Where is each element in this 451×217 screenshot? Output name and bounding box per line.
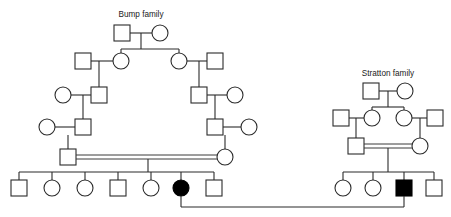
cross-family-union-line: [181, 196, 404, 207]
symbol-square-male-unaffected[interactable]: [11, 180, 27, 196]
stratton-sibship: [335, 172, 442, 196]
symbol-square-male-unaffected[interactable]: [333, 110, 349, 126]
symbol-circle-female-unaffected[interactable]: [241, 119, 257, 135]
symbol-circle-female-unaffected[interactable]: [44, 180, 60, 196]
symbol-square-male-unaffected[interactable]: [348, 138, 364, 154]
symbol-square-male-unaffected[interactable]: [191, 87, 207, 103]
symbol-square-male-unaffected[interactable]: [207, 53, 223, 69]
symbol-square-male-unaffected[interactable]: [426, 180, 442, 196]
symbol-square-male-unaffected[interactable]: [75, 53, 91, 69]
symbol-circle-female-unaffected[interactable]: [39, 119, 55, 135]
bump-consanguineous-couple: [60, 149, 233, 172]
symbol-square-male-affected[interactable]: [396, 180, 412, 196]
symbol-circle-female-unaffected[interactable]: [396, 110, 412, 126]
bump-generation-4: [39, 119, 257, 149]
symbol-circle-female-affected[interactable]: [173, 180, 189, 196]
stratton-family-label: Stratton family: [362, 69, 415, 78]
bump-sibship: [11, 172, 222, 196]
symbol-circle-female-unaffected[interactable]: [77, 180, 93, 196]
symbol-circle-female-unaffected[interactable]: [217, 149, 233, 165]
symbol-square-male-unaffected[interactable]: [60, 149, 76, 165]
symbol-square-male-unaffected[interactable]: [206, 180, 222, 196]
symbol-circle-female-unaffected[interactable]: [335, 180, 351, 196]
symbol-circle-female-unaffected[interactable]: [143, 180, 159, 196]
symbol-circle-female-unaffected[interactable]: [227, 87, 243, 103]
bump-family-label: Bump family: [118, 10, 164, 19]
stratton-consanguineous-couple: [348, 138, 428, 172]
bump-generation-3: [55, 87, 243, 119]
symbol-circle-female-unaffected[interactable]: [397, 83, 413, 99]
symbol-square-male-unaffected[interactable]: [114, 25, 130, 41]
symbol-circle-female-unaffected[interactable]: [365, 180, 381, 196]
symbol-circle-female-unaffected[interactable]: [113, 53, 129, 69]
symbol-circle-female-unaffected[interactable]: [55, 87, 71, 103]
pedigree-chart: Bump family: [0, 0, 451, 217]
symbol-square-male-unaffected[interactable]: [427, 110, 443, 126]
symbol-square-male-unaffected[interactable]: [207, 119, 223, 135]
stratton-generation-1: [363, 83, 413, 110]
pedigree-svg: Bump family: [0, 0, 451, 217]
stratton-generation-2: [333, 110, 443, 138]
symbol-circle-female-unaffected[interactable]: [412, 138, 428, 154]
bump-generation-2: [75, 53, 223, 87]
symbol-circle-female-unaffected[interactable]: [364, 110, 380, 126]
symbol-circle-female-unaffected[interactable]: [152, 25, 168, 41]
bump-generation-1: [114, 25, 179, 53]
symbol-square-male-unaffected[interactable]: [110, 180, 126, 196]
symbol-circle-female-unaffected[interactable]: [171, 53, 187, 69]
symbol-square-male-unaffected[interactable]: [363, 83, 379, 99]
symbol-square-male-unaffected[interactable]: [91, 87, 107, 103]
symbol-square-male-unaffected[interactable]: [75, 119, 91, 135]
